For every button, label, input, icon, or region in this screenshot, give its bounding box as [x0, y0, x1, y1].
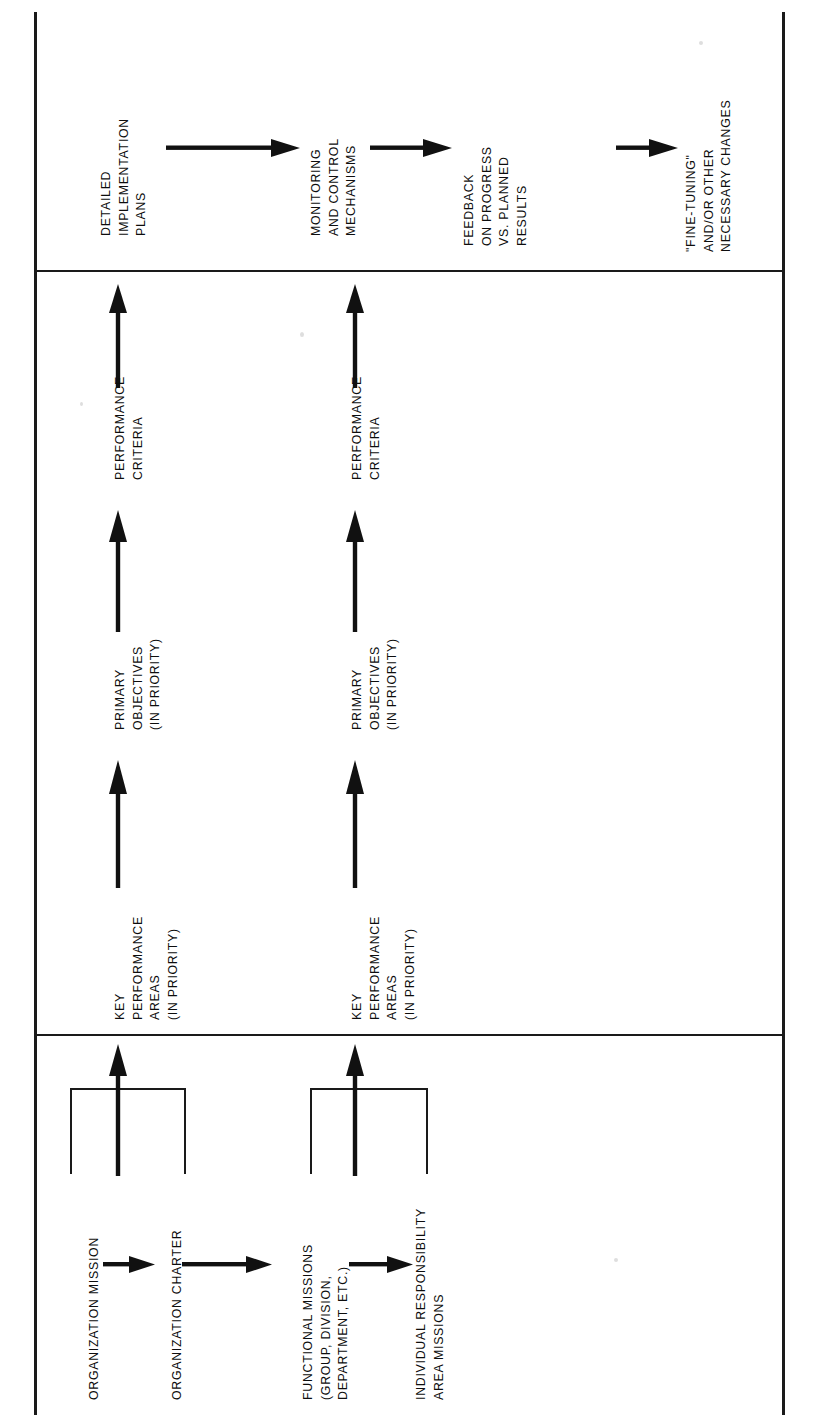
node-line: (IN PRIORITY): [165, 790, 183, 1020]
node-line: PERFORMANCE: [112, 280, 130, 480]
bracket-arm: [70, 1088, 72, 1174]
scan-speck: [614, 1258, 618, 1262]
node-line: PERFORMANCE: [367, 790, 385, 1020]
node-line: DETAILED: [98, 6, 116, 236]
scan-speck: [80, 402, 83, 406]
arrow-charter-to-functional-missions: [182, 1256, 272, 1273]
arrow-functional-to-individual: [349, 1256, 413, 1273]
node-line: FUNCTIONAL MISSIONS: [300, 1140, 318, 1400]
node-line: RESULTS: [514, 0, 532, 246]
node-line: PLANS: [133, 6, 151, 236]
node-line: PERFORMANCE: [349, 280, 367, 480]
node-individual-responsibility-area-missions: INDIVIDUAL RESPONSIBILITY AREA MISSIONS: [413, 1100, 448, 1400]
node-line: PRIMARY: [349, 520, 367, 730]
node-performance-criteria-2: PERFORMANCE CRITERIA: [349, 280, 384, 480]
bracket-span: [310, 1088, 428, 1090]
node-line: AND CONTROL: [326, 6, 344, 236]
node-line: AND/OR OTHER: [701, 2, 719, 252]
node-line: KEY: [112, 790, 130, 1020]
node-line: (IN PRIORITY): [402, 790, 420, 1020]
node-detailed-implementation-plans: DETAILED IMPLEMENTATION PLANS: [98, 6, 151, 236]
node-primary-objectives-1: PRIMARY OBJECTIVES (IN PRIORITY): [112, 520, 165, 730]
node-line: "FINE-TUNING": [683, 2, 701, 252]
node-line: (GROUP, DIVISION,: [318, 1140, 336, 1400]
node-line: MONITORING: [308, 6, 326, 236]
node-line: PRIMARY: [112, 520, 130, 730]
panel-divider-top: [34, 270, 784, 272]
node-line: MECHANISMS: [343, 6, 361, 236]
node-line: CRITERIA: [130, 280, 148, 480]
scan-speck: [300, 332, 304, 337]
node-line: AREAS: [147, 790, 165, 1020]
node-line: KEY: [349, 790, 367, 1020]
arrow-feedback-to-fine-tuning: [616, 139, 678, 157]
node-line: AREA MISSIONS: [431, 1100, 449, 1400]
node-performance-criteria-1: PERFORMANCE CRITERIA: [112, 280, 147, 480]
arrow-organization-group-to-kpa-1: [109, 1044, 127, 1176]
node-organization-mission: ORGANIZATION MISSION: [86, 1140, 104, 1400]
node-key-performance-areas-2: KEY PERFORMANCE AREAS (IN PRIORITY): [349, 790, 419, 1020]
arrow-plans-to-monitoring: [166, 139, 300, 157]
node-functional-missions: FUNCTIONAL MISSIONS (GROUP, DIVISION, DE…: [300, 1140, 353, 1400]
scan-speck: [699, 41, 703, 45]
node-line: INDIVIDUAL RESPONSIBILITY: [413, 1100, 431, 1400]
node-line: ORGANIZATION MISSION: [86, 1140, 104, 1400]
node-line: VS. PLANNED: [496, 0, 514, 246]
arrow-mission-to-charter: [103, 1256, 155, 1273]
figure-canvas: DETAILED IMPLEMENTATION PLANS MONITORING…: [0, 0, 820, 1425]
node-line: CRITERIA: [367, 280, 385, 480]
frame-left-rule: [34, 12, 37, 1415]
node-line: ON PROGRESS: [479, 0, 497, 246]
node-feedback-on-progress: FEEDBACK ON PROGRESS VS. PLANNED RESULTS: [461, 0, 531, 246]
node-line: (IN PRIORITY): [384, 520, 402, 730]
node-line: OBJECTIVES: [130, 520, 148, 730]
node-line: (IN PRIORITY): [147, 520, 165, 730]
node-line: FEEDBACK: [461, 0, 479, 246]
node-line: NECESSARY CHANGES: [718, 2, 736, 252]
node-primary-objectives-2: PRIMARY OBJECTIVES (IN PRIORITY): [349, 520, 402, 730]
node-line: AREAS: [384, 790, 402, 1020]
panel-divider-bottom: [34, 1034, 784, 1036]
bracket-span: [70, 1088, 186, 1090]
node-line: IMPLEMENTATION: [116, 6, 134, 236]
node-fine-tuning-changes: "FINE-TUNING" AND/OR OTHER NECESSARY CHA…: [683, 2, 736, 252]
node-line: PERFORMANCE: [130, 790, 148, 1020]
node-monitoring-and-control-mechanisms: MONITORING AND CONTROL MECHANISMS: [308, 6, 361, 236]
arrow-monitoring-to-feedback: [370, 139, 452, 157]
node-line: OBJECTIVES: [367, 520, 385, 730]
frame-right-rule: [782, 12, 785, 1415]
node-key-performance-areas-1: KEY PERFORMANCE AREAS (IN PRIORITY): [112, 790, 182, 1020]
